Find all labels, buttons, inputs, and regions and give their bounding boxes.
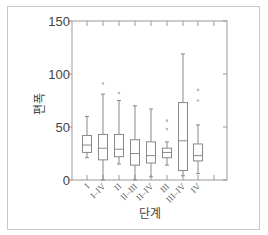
iqr-box <box>147 142 156 163</box>
x-axis-title: 단계 <box>139 207 161 221</box>
y-axis-tick-labels: 050100150 <box>48 14 70 188</box>
box-1 <box>99 82 108 180</box>
box-plot: 050100150 II–IVIIII–IIIII–IVIIIIII–IVIV … <box>0 0 268 235</box>
box-3 <box>131 106 140 180</box>
y-tick-label: 150 <box>48 14 70 29</box>
x-category-label: II–IV <box>134 181 156 203</box>
outlier-point <box>166 119 169 122</box>
iqr-box <box>163 148 172 158</box>
x-category-label: IV <box>189 181 203 195</box>
x-axis-category-labels: II–IVIIII–IIIII–IVIIIIII–IVIV <box>82 181 203 205</box>
x-category-label: II–III <box>119 181 140 202</box>
outlier-point <box>166 128 169 131</box>
y-tick-label: 0 <box>63 173 70 188</box>
iqr-box <box>115 134 124 156</box>
box-2 <box>115 92 124 164</box>
box-4 <box>147 109 156 177</box>
box-5 <box>163 119 172 165</box>
iqr-box <box>99 134 108 159</box>
x-category-label: I <box>82 181 91 190</box>
iqr-box <box>179 103 188 171</box>
outlier-point <box>118 92 121 95</box>
y-tick-label: 50 <box>56 120 70 135</box>
x-category-label: III–IV <box>164 181 188 205</box>
box-7 <box>194 89 203 174</box>
iqr-box <box>83 135 92 152</box>
iqr-box <box>194 144 203 161</box>
outlier-point <box>197 89 200 92</box>
x-category-label: I–IV <box>88 181 107 200</box>
y-axis-title: 편폭 <box>33 93 47 115</box>
outlier-point <box>197 99 200 102</box>
outlier-point <box>102 82 105 85</box>
box-0 <box>83 116 92 157</box>
box-series <box>83 54 203 180</box>
iqr-box <box>131 140 140 165</box>
box-6 <box>179 54 188 176</box>
y-tick-label: 100 <box>48 67 70 82</box>
